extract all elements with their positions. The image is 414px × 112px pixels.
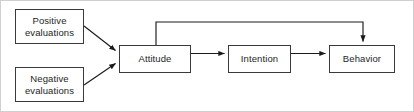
node-intention-label: Intention [239, 53, 280, 65]
node-positive-evaluations[interactable]: Positive evaluations [15, 9, 84, 44]
node-intention[interactable]: Intention [228, 45, 291, 73]
node-positive-evaluations-label: Positive evaluations [23, 15, 76, 39]
node-negative-evaluations-label: Negative evaluations [23, 73, 76, 97]
edge-positive-to-attitude [84, 26, 116, 51]
edge-attitude-to-behavior [156, 22, 363, 45]
node-attitude[interactable]: Attitude [119, 45, 191, 73]
node-behavior-label: Behavior [341, 53, 383, 65]
node-attitude-label: Attitude [136, 53, 173, 65]
edge-negative-to-attitude [84, 64, 116, 86]
node-negative-evaluations[interactable]: Negative evaluations [15, 67, 84, 102]
node-behavior[interactable]: Behavior [329, 45, 395, 73]
diagram-canvas: Positive evaluations Negative evaluation… [0, 0, 414, 112]
